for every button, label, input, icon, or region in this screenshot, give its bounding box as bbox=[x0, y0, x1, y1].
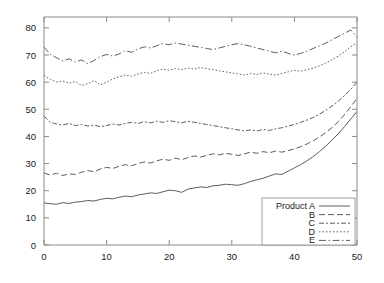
series-line-d bbox=[44, 43, 357, 86]
x-tick-label: 0 bbox=[41, 251, 46, 262]
y-tick-label: 10 bbox=[25, 212, 36, 223]
y-tick-label: 20 bbox=[25, 185, 36, 196]
series-line-product-a bbox=[44, 111, 357, 204]
y-tick-label: 80 bbox=[25, 22, 36, 33]
series-line-b bbox=[44, 98, 357, 175]
legend-label-e: E bbox=[309, 235, 315, 245]
chart-legend: Product ABCDE bbox=[262, 198, 355, 245]
line-chart: 0102030405060708001020304050 Product ABC… bbox=[0, 0, 384, 283]
series-line-c bbox=[44, 82, 357, 131]
y-tick-label: 60 bbox=[25, 77, 36, 88]
x-tick-label: 30 bbox=[227, 251, 238, 262]
y-tick-label: 70 bbox=[25, 50, 36, 61]
series-group bbox=[44, 30, 357, 204]
y-tick-label: 0 bbox=[31, 240, 36, 251]
y-tick-label: 50 bbox=[25, 104, 36, 115]
y-tick-label: 40 bbox=[25, 131, 36, 142]
x-tick-label: 10 bbox=[101, 251, 112, 262]
x-tick-label: 40 bbox=[289, 251, 300, 262]
series-line-e bbox=[44, 30, 357, 64]
chart-figure: 0102030405060708001020304050 Product ABC… bbox=[0, 0, 384, 283]
y-tick-label: 30 bbox=[25, 158, 36, 169]
x-tick-label: 50 bbox=[352, 251, 363, 262]
x-tick-label: 20 bbox=[164, 251, 175, 262]
